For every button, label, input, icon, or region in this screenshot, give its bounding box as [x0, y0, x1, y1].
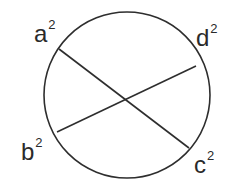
- label-b-squared: b2: [21, 140, 43, 164]
- diagram-canvas: a2 d2 b2 c2: [0, 0, 232, 186]
- label-b-base: b: [21, 138, 34, 165]
- label-a-exponent: 2: [48, 17, 55, 32]
- label-b-exponent: 2: [35, 135, 42, 150]
- label-d-base: d: [196, 24, 209, 51]
- label-c-base: c: [194, 151, 206, 178]
- label-c-exponent: 2: [207, 148, 214, 163]
- circle: [44, 12, 210, 178]
- label-a-squared: a2: [34, 22, 56, 46]
- chord-d-to-b: [57, 66, 196, 132]
- label-a-base: a: [34, 20, 47, 47]
- label-c-squared: c2: [194, 153, 214, 177]
- label-d-squared: d2: [196, 26, 218, 50]
- chord-a-to-c: [59, 49, 189, 148]
- label-d-exponent: 2: [210, 21, 217, 36]
